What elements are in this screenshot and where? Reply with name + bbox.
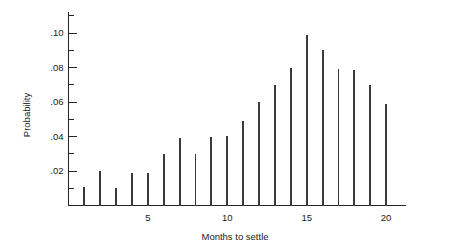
chart-canvas: .02.04.06.08.10 5101520 Months to settle… xyxy=(0,0,457,251)
x-tick-label: 10 xyxy=(222,212,233,223)
y-axis-tick-labels: .02.04.06.08.10 xyxy=(50,27,63,176)
y-axis-ticks xyxy=(69,16,77,189)
y-tick-label: .04 xyxy=(50,131,63,142)
x-tick-label: 15 xyxy=(301,212,312,223)
x-tick-label: 5 xyxy=(145,212,150,223)
x-axis-title: Months to settle xyxy=(201,231,268,242)
x-tick-label: 20 xyxy=(381,212,392,223)
axes xyxy=(69,12,407,205)
y-tick-label: .08 xyxy=(50,62,63,73)
y-tick-label: .06 xyxy=(50,96,63,107)
probability-stem-chart: .02.04.06.08.10 5101520 Months to settle… xyxy=(0,0,457,251)
x-axis-ticks xyxy=(84,198,386,206)
x-axis-tick-labels: 5101520 xyxy=(145,212,391,223)
data-stems xyxy=(84,35,386,206)
y-axis-title: Probability xyxy=(21,93,32,138)
y-tick-label: .02 xyxy=(50,165,63,176)
y-tick-label: .10 xyxy=(50,27,63,38)
